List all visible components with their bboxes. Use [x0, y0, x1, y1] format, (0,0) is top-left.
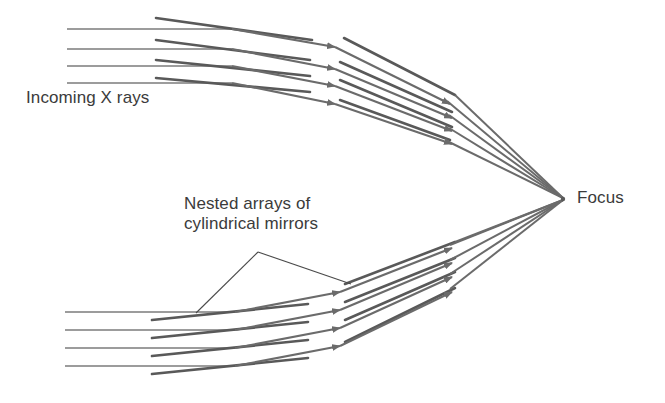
label-focus: Focus — [577, 188, 624, 208]
reflected-ray — [235, 346, 340, 366]
incoming-rays-lower — [65, 312, 235, 366]
label-incoming-x-rays: Incoming X rays — [26, 88, 149, 108]
upper-assembly — [67, 18, 563, 198]
reflected-ray — [232, 83, 335, 104]
reflected-rays-stage1-upper — [232, 29, 335, 104]
mirror-segment — [156, 78, 310, 92]
focus-convergence-upper — [447, 95, 563, 198]
mirror-array-stage2-lower — [345, 242, 455, 342]
reflected-ray — [232, 29, 335, 47]
label-nested-line2: cylindrical mirrors — [184, 214, 318, 233]
reflected-rays-stage2-upper — [335, 47, 452, 144]
mirror-segment — [345, 242, 455, 284]
label-nested-line1: Nested arrays of — [184, 194, 310, 213]
ray-diagram-svg — [0, 0, 665, 403]
reflected-ray — [235, 328, 340, 348]
converging-ray — [340, 292, 452, 346]
reflected-ray — [232, 66, 335, 86]
incoming-rays-upper — [67, 29, 232, 83]
reflected-ray — [235, 292, 340, 312]
mirror-segment — [344, 38, 455, 95]
focus-point — [561, 197, 565, 201]
focus-ray — [449, 115, 563, 198]
focus-ray — [450, 200, 563, 260]
leader-line-left — [196, 252, 258, 313]
focus-ray — [450, 200, 563, 289]
focus-convergence-lower — [450, 200, 563, 289]
leader-line-right — [258, 252, 351, 284]
label-nested-arrays: Nested arrays ofcylindrical mirrors — [184, 194, 318, 234]
focus-ray — [455, 95, 563, 198]
reflected-ray — [235, 310, 340, 330]
reflected-ray — [232, 49, 335, 69]
focus-ray — [449, 128, 563, 198]
xray-optics-figure: Incoming X rays Nested arrays ofcylindri… — [0, 0, 665, 403]
mirror-segment — [156, 60, 310, 76]
